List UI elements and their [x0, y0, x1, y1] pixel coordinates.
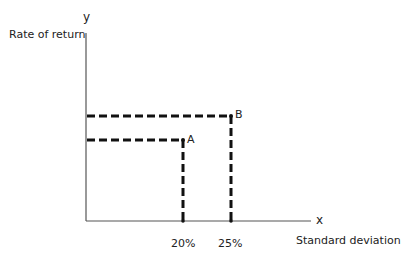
point-a — [181, 138, 185, 142]
tick-label-25: 25% — [218, 237, 242, 250]
tick-a — [181, 219, 185, 223]
tick-b — [229, 219, 233, 223]
point-b-label: B — [235, 108, 243, 121]
x-axis-title: Standard deviation — [296, 234, 401, 247]
y-axis-letter: y — [83, 10, 90, 24]
x-axis-letter: x — [316, 213, 323, 227]
y-axis-title: Rate of return — [9, 28, 85, 41]
tick-label-20: 20% — [171, 237, 195, 250]
point-b — [229, 114, 233, 118]
point-a-label: A — [187, 133, 195, 146]
